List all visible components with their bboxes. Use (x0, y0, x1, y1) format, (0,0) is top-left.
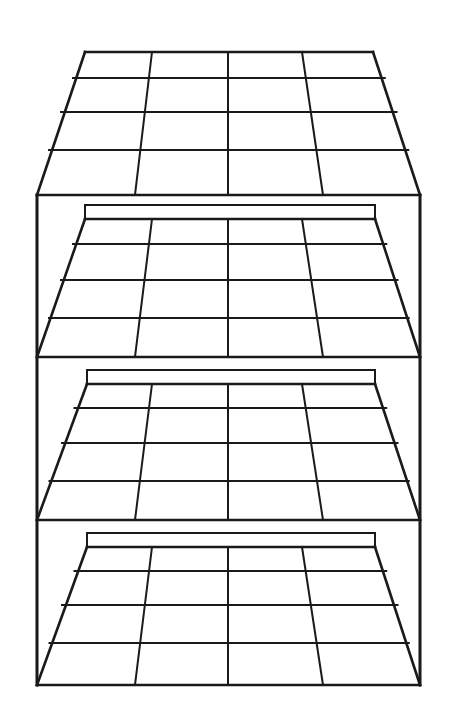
shelf-2 (37, 205, 420, 357)
shelf-1 (37, 52, 420, 195)
shelf-board-riser (87, 370, 375, 384)
shelf-4 (37, 533, 420, 685)
shelf-board-riser (85, 205, 375, 219)
figure-root (0, 0, 453, 717)
shelf-board-riser (87, 533, 375, 547)
shelf-3 (37, 370, 420, 520)
shelf-line-drawing (0, 0, 453, 717)
